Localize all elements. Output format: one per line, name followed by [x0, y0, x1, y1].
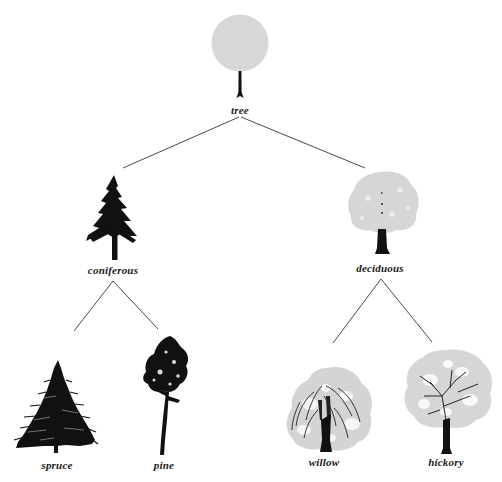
edge-tree-coniferous [123, 117, 239, 168]
node-label-tree: tree [231, 104, 249, 116]
willow-tree-icon [287, 367, 372, 452]
generic-tree-icon [212, 15, 269, 99]
pine-tree-icon [143, 336, 188, 455]
node-label-deciduous: deciduous [356, 262, 404, 274]
coniferous-tree-icon [86, 175, 137, 260]
edge-tree-deciduous [241, 117, 365, 168]
node-label-willow: willow [309, 456, 340, 468]
edge-deciduous-willow [333, 279, 381, 343]
deciduous-tree-icon [348, 172, 418, 254]
node-label-coniferous: coniferous [88, 264, 138, 276]
node-label-spruce: spruce [41, 459, 72, 471]
edge-coniferous-pine [113, 281, 158, 329]
hickory-tree-icon [405, 350, 492, 454]
edge-deciduous-hickory [381, 279, 432, 342]
tree-taxonomy-diagram [0, 0, 502, 482]
spruce-tree-icon [14, 360, 98, 453]
node-label-pine: pine [154, 459, 174, 471]
node-label-hickory: hickory [428, 456, 464, 468]
edge-coniferous-spruce [74, 281, 113, 331]
